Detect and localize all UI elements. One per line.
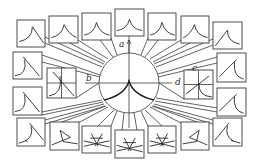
label-b: b	[86, 73, 92, 83]
box-frame	[49, 16, 78, 43]
label-c: c	[192, 63, 197, 73]
box-right-1	[217, 53, 246, 82]
box-frame	[213, 22, 242, 49]
connector-line	[153, 106, 213, 124]
box-bottom-1	[17, 118, 45, 146]
box-bottom-5	[148, 126, 176, 153]
box-frame	[50, 122, 79, 150]
box-frame	[181, 16, 209, 43]
box-bottom-4	[115, 130, 144, 158]
connector-line	[145, 110, 162, 126]
box-top-4	[115, 9, 144, 36]
box-right-2	[217, 88, 246, 116]
box-frame	[82, 126, 111, 153]
box-frame	[82, 13, 111, 40]
box-left-1	[13, 52, 42, 79]
box-frame	[181, 122, 209, 150]
connector-line	[122, 113, 124, 130]
box-top-5	[148, 13, 176, 40]
box-frame	[17, 118, 45, 146]
box-frame	[213, 118, 242, 146]
box-frame	[148, 13, 176, 40]
box-left-2	[13, 87, 42, 115]
box-top-6	[181, 16, 209, 43]
box-bottom-7	[213, 118, 242, 146]
connector-line	[42, 102, 103, 115]
box-bottom-2	[50, 122, 79, 150]
cusp-bifurcation-diagram: a b c d	[0, 0, 258, 163]
inset-connector	[76, 83, 99, 98]
box-frame	[148, 126, 176, 153]
box-frame	[115, 9, 144, 36]
box-frame	[217, 53, 246, 82]
connector-line	[150, 40, 181, 59]
inset-right	[159, 70, 213, 99]
connector-line	[42, 100, 102, 112]
connector-line	[111, 111, 117, 126]
label-a: a	[119, 39, 124, 49]
box-frame	[115, 130, 144, 158]
connector-line	[141, 38, 148, 55]
connector-line	[134, 113, 137, 130]
box-frame	[217, 88, 246, 116]
connector-line	[45, 106, 105, 124]
box-top-2	[49, 16, 78, 43]
connector-line	[145, 40, 158, 57]
diagram-canvas: a b c d	[0, 0, 258, 163]
box-frame	[13, 87, 42, 115]
box-bottom-6	[181, 122, 209, 150]
connector-line	[111, 38, 117, 55]
box-top-1	[17, 20, 45, 47]
connector-line	[45, 43, 102, 67]
box-bottom-3	[82, 126, 111, 153]
box-top-3	[82, 13, 111, 40]
connector-line	[141, 111, 148, 126]
label-d: d	[175, 77, 181, 87]
box-top-7	[213, 22, 242, 49]
connector-line	[100, 40, 113, 57]
